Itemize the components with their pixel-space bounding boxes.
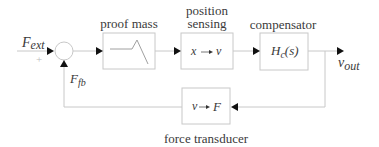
force-transducer-title: force transducer — [164, 132, 248, 145]
compensator-transfer-function: Hc(s) — [271, 44, 299, 57]
sensing-to-v: v — [216, 45, 221, 57]
arrow-into-compensator-icon — [253, 47, 260, 55]
sensing-from-x: x — [191, 45, 196, 57]
arrow-into-sum-icon — [47, 47, 54, 55]
arrow-into-proofmass-icon — [96, 47, 103, 55]
f-ext-subscript: ext — [31, 38, 45, 52]
transducer-from-v: v — [192, 100, 197, 112]
h-symbol: H — [271, 43, 280, 58]
v-to-f-arrow-icon — [206, 105, 210, 109]
v-out-subscript: out — [344, 59, 359, 73]
arrow-output-icon — [337, 47, 344, 55]
v-out-label: vout — [338, 56, 360, 70]
arrow-into-transducer-icon — [231, 103, 238, 111]
h-subscript: c — [280, 49, 284, 60]
arrow-feedback-into-sum-icon — [60, 60, 68, 67]
x-to-v-arrow-icon — [209, 50, 213, 54]
f-ext-symbol: F — [22, 35, 31, 50]
resonance-curve-icon — [110, 40, 148, 64]
f-fb-label: Ffb — [70, 72, 86, 85]
position-sensing-title-2: sensing — [188, 17, 227, 30]
f-fb-symbol: F — [70, 71, 78, 86]
f-fb-subscript: fb — [78, 77, 86, 88]
position-sensing-box — [181, 33, 233, 69]
proof-mass-box — [103, 33, 155, 69]
summing-junction — [55, 42, 73, 60]
proof-mass-title: proof mass — [100, 17, 157, 30]
f-ext-label: Fext — [22, 36, 45, 50]
arrow-into-sensing-icon — [174, 47, 181, 55]
plus-sign: + — [36, 54, 42, 65]
transducer-to-f: F — [213, 100, 221, 113]
h-argument: (s) — [285, 43, 299, 58]
compensator-title: compensator — [250, 18, 316, 31]
